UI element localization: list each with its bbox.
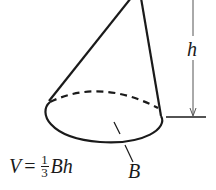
base-front-arc (45, 102, 162, 142)
formula-rhs: Bh (51, 155, 73, 178)
formula-fraction: 1 3 (41, 154, 49, 179)
cone-left-slant (49, 0, 131, 101)
base-back-dashed (50, 91, 158, 108)
base-label: B (128, 160, 140, 183)
formula-equals: = (24, 155, 35, 178)
base-pointer-line (114, 122, 120, 134)
cone-right-slant (141, 0, 161, 116)
formula-lhs: V (9, 155, 21, 178)
volume-formula: V = 1 3 Bh (9, 154, 73, 179)
cone-diagram: h B V = 1 3 Bh (0, 0, 216, 190)
height-label: h (187, 38, 197, 61)
fraction-denominator: 3 (41, 167, 48, 179)
